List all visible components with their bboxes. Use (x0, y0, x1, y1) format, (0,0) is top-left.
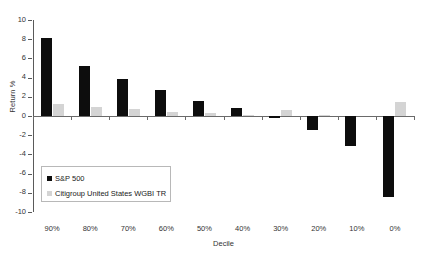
x-tick-label: 80% (70, 224, 110, 233)
x-tick-mark (224, 116, 225, 120)
x-tick-label: 90% (32, 224, 72, 233)
x-tick-mark (414, 116, 415, 120)
bar-sp500 (269, 116, 280, 118)
x-tick-mark (71, 116, 72, 120)
y-tick-label: 0 (22, 111, 26, 120)
y-tick-mark (28, 58, 32, 59)
x-tick-label: 50% (184, 224, 224, 233)
bar-chart: Return % 1086420-2-4-6-8-10 90%80%70%60%… (0, 0, 427, 256)
bar-citigroup (243, 115, 254, 116)
x-tick-mark (338, 116, 339, 120)
bar-sp500 (79, 66, 90, 116)
y-tick-mark (28, 212, 32, 213)
y-tick-label: -4 (19, 149, 26, 158)
bar-sp500 (41, 38, 52, 116)
bar-sp500 (117, 79, 128, 116)
x-tick-mark (33, 116, 34, 120)
x-tick-label: 60% (146, 224, 186, 233)
x-tick-mark (185, 116, 186, 120)
x-tick-label: 10% (337, 224, 377, 233)
y-tick-mark (28, 154, 32, 155)
y-tick-label: -6 (19, 168, 26, 177)
y-tick-label: 4 (22, 72, 26, 81)
bar-sp500 (307, 116, 318, 130)
legend-label-sp500: S&P 500 (55, 175, 84, 183)
legend-label-citigroup: Citigroup United States WGBI TR (55, 190, 166, 198)
bar-citigroup (129, 109, 140, 116)
legend-swatch-icon-citigroup (47, 191, 52, 196)
bar-citigroup (281, 110, 292, 116)
y-tick-mark (28, 116, 32, 117)
y-tick-mark (28, 39, 32, 40)
bar-sp500 (193, 101, 204, 116)
y-tick-mark (28, 135, 32, 136)
y-tick-mark (28, 20, 32, 21)
y-tick-mark (28, 97, 32, 98)
chart-legend: S&P 500 Citigroup United States WGBI TR (41, 166, 171, 202)
y-tick-mark (28, 193, 32, 194)
x-tick-mark (109, 116, 110, 120)
bar-citigroup (319, 115, 330, 116)
bar-sp500 (155, 90, 166, 116)
x-tick-mark (300, 116, 301, 120)
y-tick-label: -8 (19, 187, 26, 196)
bar-sp500 (345, 116, 356, 146)
x-tick-label: 0% (375, 224, 415, 233)
bar-citigroup (53, 104, 64, 116)
x-tick-label: 40% (223, 224, 263, 233)
y-tick-label: 2 (22, 91, 26, 100)
y-tick-mark (28, 78, 32, 79)
legend-swatch-icon-sp500 (47, 176, 52, 181)
bar-citigroup (167, 112, 178, 116)
y-tick-mark (28, 174, 32, 175)
x-tick-mark (262, 116, 263, 120)
x-tick-mark (376, 116, 377, 120)
y-tick-label: 10 (18, 15, 26, 24)
legend-item-sp500: S&P 500 (47, 171, 165, 186)
bar-sp500 (383, 116, 394, 197)
bar-citigroup (91, 107, 102, 116)
y-tick-label: -10 (15, 207, 26, 216)
y-tick-label: -2 (19, 130, 26, 139)
x-tick-label: 70% (108, 224, 148, 233)
y-tick-label: 6 (22, 53, 26, 62)
bar-citigroup (395, 102, 406, 116)
bar-sp500 (231, 108, 242, 116)
x-axis-title: Decile (33, 239, 414, 248)
x-tick-mark (147, 116, 148, 120)
bar-citigroup (205, 113, 216, 116)
y-tick-label: 8 (22, 34, 26, 43)
legend-item-citigroup: Citigroup United States WGBI TR (47, 186, 165, 201)
y-axis-title: Return % (8, 62, 17, 132)
x-tick-label: 30% (261, 224, 301, 233)
x-tick-label: 20% (299, 224, 339, 233)
